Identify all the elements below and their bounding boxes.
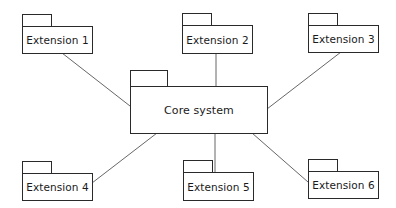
package-label: Extension 1 xyxy=(26,34,89,46)
package-extension-6: Extension 6 xyxy=(308,159,379,199)
package-body: Extension 4 xyxy=(22,173,93,201)
package-body: Core system xyxy=(130,86,268,134)
package-tab xyxy=(130,70,168,87)
package-label: Core system xyxy=(164,104,234,117)
package-label: Extension 6 xyxy=(312,179,375,191)
connector-extension-3 xyxy=(267,52,341,109)
package-body: Extension 1 xyxy=(22,26,93,54)
package-body: Extension 3 xyxy=(308,25,379,53)
connector-extension-4 xyxy=(92,133,157,183)
package-label: Extension 5 xyxy=(187,181,250,193)
package-extension-1: Extension 1 xyxy=(22,14,93,54)
package-extension-3: Extension 3 xyxy=(308,13,379,53)
connector-extension-1 xyxy=(62,53,130,106)
package-core-system: Core system xyxy=(130,70,268,134)
plugin-architecture-diagram: Core system Extension 1 Extension 2 Exte… xyxy=(0,0,396,208)
package-label: Extension 3 xyxy=(312,33,375,45)
package-extension-5: Extension 5 xyxy=(183,160,254,201)
package-label: Extension 4 xyxy=(26,181,89,193)
connector-extension-6 xyxy=(252,133,308,182)
package-body: Extension 2 xyxy=(182,25,253,54)
package-label: Extension 2 xyxy=(186,34,249,46)
package-body: Extension 5 xyxy=(183,172,254,201)
package-extension-4: Extension 4 xyxy=(22,161,93,201)
package-extension-2: Extension 2 xyxy=(182,13,253,54)
package-body: Extension 6 xyxy=(308,171,379,199)
